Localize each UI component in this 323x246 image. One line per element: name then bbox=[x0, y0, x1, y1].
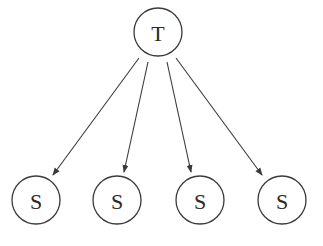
child-node-1: S bbox=[12, 176, 60, 224]
edge-t-s1 bbox=[53, 58, 139, 175]
child-node-label: S bbox=[30, 189, 42, 214]
tree-diagram: T S S S S bbox=[0, 0, 323, 246]
child-node-2: S bbox=[93, 176, 141, 224]
child-node-3: S bbox=[176, 176, 224, 224]
edge-t-s4 bbox=[176, 58, 262, 175]
child-node-label: S bbox=[194, 189, 206, 214]
child-node-label: S bbox=[111, 189, 123, 214]
edges bbox=[53, 58, 262, 175]
root-node-label: T bbox=[151, 21, 165, 46]
edge-t-s3 bbox=[167, 62, 191, 172]
root-node: T bbox=[134, 8, 182, 56]
edge-t-s2 bbox=[124, 62, 148, 172]
child-node-label: S bbox=[276, 189, 288, 214]
child-node-4: S bbox=[258, 176, 306, 224]
